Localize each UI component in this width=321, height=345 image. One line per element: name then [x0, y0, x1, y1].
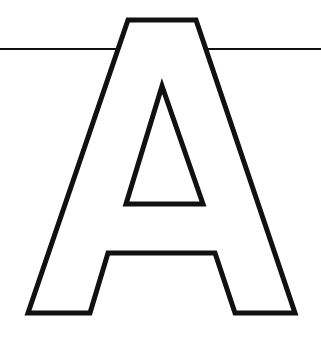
- letter-a-figure: A: [0, 0, 321, 345]
